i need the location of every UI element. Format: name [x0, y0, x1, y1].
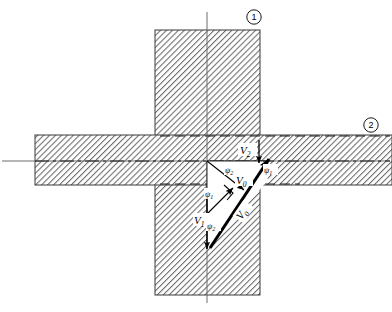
callouts: 1 2 [247, 10, 378, 132]
diagram-svg: 1 2 V2 V0 V0 V1 ψ1 [0, 0, 392, 312]
callout-1-label: 1 [251, 12, 256, 22]
diagram-canvas: 1 2 V2 V0 V0 V1 ψ1 [0, 0, 392, 312]
callout-2-label: 2 [368, 120, 373, 130]
